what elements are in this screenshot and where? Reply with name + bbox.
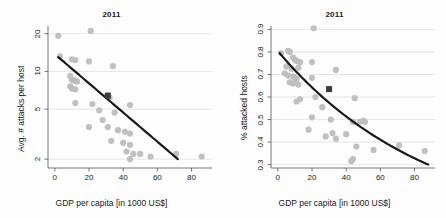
x-tick-label: 40 [119,173,128,182]
x-tick-label: 20 [308,173,317,182]
chart-panel-right: 2011 % attacked hosts GDP per capita [in… [223,0,446,218]
y-tick-label: 20 [33,29,42,38]
x-axis-label-right: GDP per capita [in 1000 US$] [223,198,446,208]
x-axis-label-left: GDP per capita [in 1000 US$] [0,198,223,208]
y-tick-label: 5 [33,107,42,111]
x-tick-label: 0 [53,173,57,182]
x-tick-label: 80 [187,173,196,182]
y-tick-label: 0.7 [256,69,265,80]
x-tick-label: 20 [85,173,94,182]
x-tick-label: 60 [153,173,162,182]
y-axis-label-left: Avg. # attacks per host [16,66,26,152]
figure-container: 2011 Avg. # attacks per host GDP per cap… [0,0,446,218]
y-tick-label: 0.5 [256,114,265,125]
x-tick-label: 40 [342,173,351,182]
y-axis-label-right: % attacked hosts [239,75,249,140]
y-tick-label: 0.8 [256,46,265,57]
y-tick-label: 0.9 [256,24,265,35]
x-tick-label: 0 [276,173,280,182]
x-tick-label: 80 [410,173,419,182]
x-tick-label: 60 [376,173,385,182]
y-tick-label: 2 [33,157,42,161]
y-tick-label: 10 [33,67,42,76]
y-tick-label: 0.4 [256,137,265,148]
y-tick-label: 0.6 [256,91,265,102]
y-tick-label: 0.3 [256,159,265,170]
chart-panel-left: 2011 Avg. # attacks per host GDP per cap… [0,0,223,218]
